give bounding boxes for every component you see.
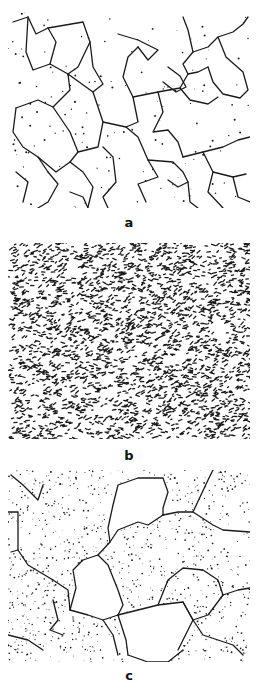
micrograph-panel-c: [8, 470, 250, 662]
panel-label-c: c: [0, 669, 258, 683]
micrograph-b-image: [8, 243, 250, 439]
micrograph-panel-b: [8, 243, 250, 439]
panel-label-b: b: [0, 449, 258, 463]
panel-label-a: a: [0, 216, 258, 230]
micrograph-a-image: [8, 12, 250, 208]
micrograph-panel-a: [8, 12, 250, 208]
micrograph-c-image: [8, 470, 250, 662]
